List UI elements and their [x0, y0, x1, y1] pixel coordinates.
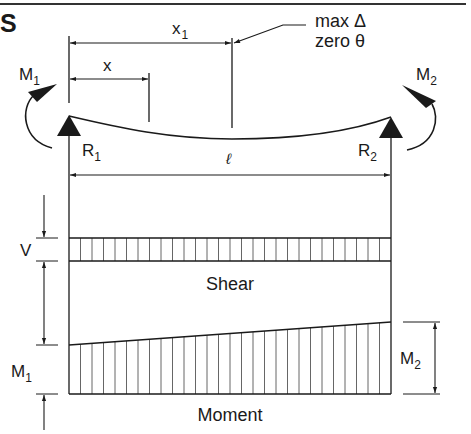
shear-title: Shear — [206, 274, 254, 294]
left-moment-label: M1 — [19, 65, 40, 88]
x-label: x — [103, 56, 112, 75]
x1-label: x1 — [172, 19, 189, 42]
shear-hatching — [81, 238, 380, 261]
m2-label: M2 — [400, 349, 421, 372]
moment-diagram: Moment M1 M2 — [11, 300, 440, 430]
moment-title: Moment — [197, 405, 262, 425]
left-reaction-label: R1 — [82, 141, 101, 164]
beam-section: x1 x max Δ zero θ M1 M2 R1 R2 ℓ — [19, 11, 437, 175]
deflected-beam-curve — [69, 116, 391, 139]
zero-slope-label: zero θ — [315, 31, 365, 51]
v-label: V — [20, 241, 32, 260]
span-label: ℓ — [225, 150, 232, 167]
right-moment-arc-icon — [407, 104, 436, 150]
beam-diagram: S x1 x max Δ zero θ M1 M2 R1 R2 — [0, 0, 471, 434]
max-deflection-leader — [234, 25, 306, 43]
right-reaction-label: R2 — [358, 141, 377, 164]
m1-label: M1 — [11, 362, 32, 385]
shear-diagram: Shear V — [20, 195, 391, 300]
right-moment-label: M2 — [416, 65, 437, 88]
max-deflection-label: max Δ — [315, 11, 366, 31]
header-title-fragment: S — [0, 9, 17, 37]
left-moment-arc-icon — [26, 95, 52, 148]
right-moment-arrowhead-icon — [402, 85, 436, 108]
